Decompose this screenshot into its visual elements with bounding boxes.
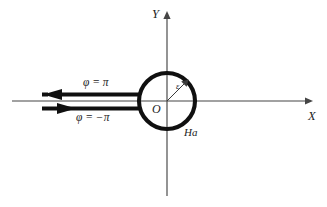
- lower-branch-phase-label: φ = −π: [76, 112, 109, 124]
- lower-branch-cut-arrowhead: [57, 103, 76, 114]
- upper-branch-phase-label: φ = π: [83, 77, 109, 89]
- y-axis-arrowhead: [163, 11, 170, 19]
- x-axis-label: X: [308, 110, 316, 123]
- keyhole-contour-drawing: [0, 0, 327, 207]
- upper-branch-cut-group: [42, 89, 140, 100]
- origin-label: O: [152, 103, 161, 115]
- figure-canvas: Y X O ε Ha φ = π φ = −π: [0, 0, 327, 207]
- epsilon-radius-label: ε: [176, 82, 179, 91]
- x-axis-arrowhead: [305, 97, 313, 104]
- y-axis-label: Y: [152, 8, 159, 21]
- contour-name-label: Ha: [184, 127, 197, 138]
